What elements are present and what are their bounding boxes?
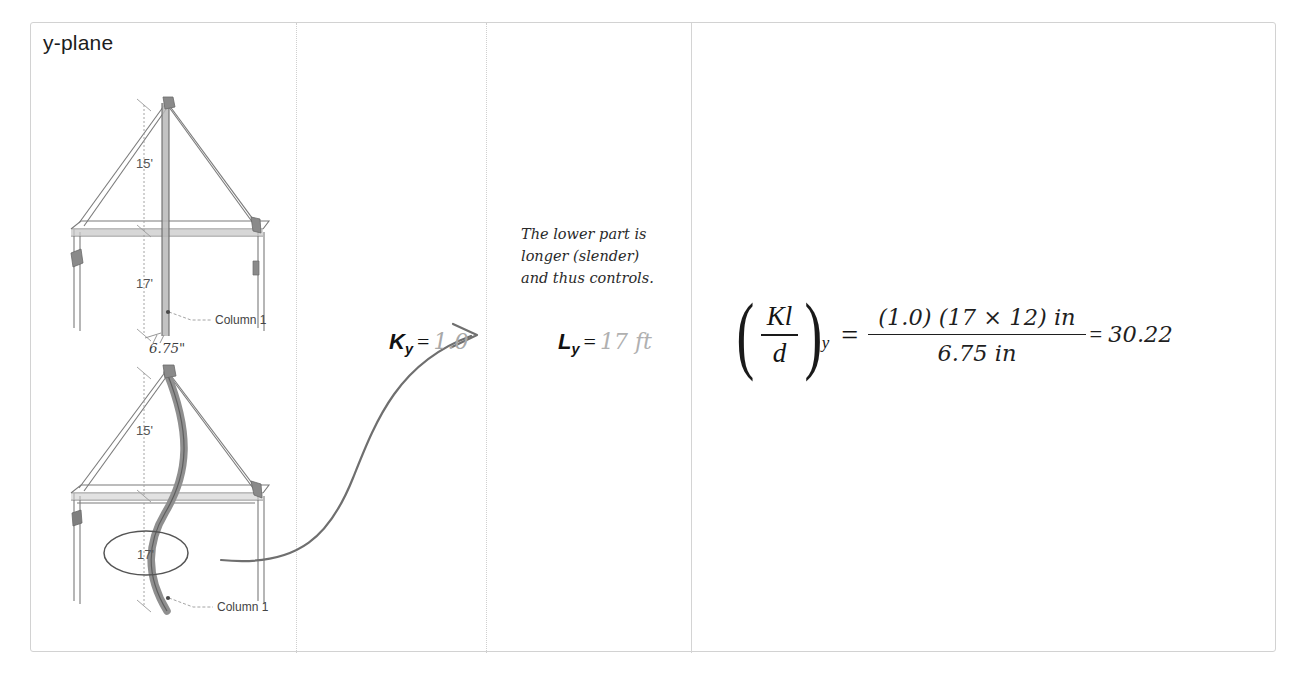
k-factor-label: Ky=1.0 (389, 329, 468, 357)
kl-over-d-fraction: Kl d (761, 301, 799, 369)
l-symbol: Ly (558, 329, 580, 354)
leader-dot (166, 596, 170, 600)
truss-bottom-chord (71, 493, 263, 500)
equation-equals: = (841, 318, 858, 352)
open-paren: ( (736, 301, 754, 368)
k-equals: = (413, 329, 433, 354)
apex-connector (163, 365, 176, 378)
note-line-1: The lower part is (521, 223, 706, 245)
k-value: 1.0 (433, 329, 468, 354)
content-frame: y-plane (30, 22, 1276, 652)
length-label: Ly=17 ft (558, 329, 652, 357)
dimension-upper-15ft: 15' (136, 423, 153, 438)
rhs-fraction: (1.0) (17 × 12) in 6.75 in (868, 304, 1085, 367)
l-value: 17 ft (600, 329, 652, 354)
result-value: 30.22 (1108, 321, 1172, 347)
column-divider-1 (296, 23, 297, 653)
buckled-column-truss-diagram: 15' 17' Column 1 (41, 353, 291, 643)
rhs-denominator: 6.75 in (927, 335, 1026, 366)
equation-result: =30.22 (1090, 321, 1173, 348)
dimension-width-675in: 6.75" (149, 340, 185, 353)
lhs-subscript: y (822, 333, 830, 353)
left-base-connector (71, 249, 83, 267)
right-base-connector (253, 261, 259, 275)
apex-connector (163, 97, 175, 109)
straight-column-truss-diagram: 15' 17' 6.75" Column 1 (41, 83, 291, 353)
rhs-numerator: (1.0) (17 × 12) in (868, 304, 1085, 334)
note-line-2: longer (slender) (521, 245, 706, 267)
left-base-connector (72, 510, 82, 526)
kl-numerator: Kl (761, 301, 799, 334)
note-line-3: and thus controls. (521, 267, 706, 289)
dimension-lower-17ft: 17' (137, 547, 154, 562)
k-symbol: Ky (389, 329, 413, 354)
d-denominator: d (767, 336, 793, 369)
close-paren: ) (805, 301, 823, 368)
lhs-group: ( Kl d ) y (731, 301, 829, 369)
leader-dot (166, 310, 170, 314)
column-divider-2 (486, 23, 487, 653)
dimension-lower-17ft: 17' (136, 276, 153, 291)
l-equals: = (580, 329, 600, 354)
column-member (162, 103, 169, 336)
worksheet-page: y-plane (0, 0, 1310, 686)
slenderness-equation: ( Kl d ) y = (1.0) (17 × 12) in 6.75 in … (731, 301, 1173, 369)
member-label-column1: Column 1 (217, 600, 269, 614)
annotation-note: The lower part is longer (slender) and t… (521, 223, 706, 289)
dimension-upper-15ft: 15' (136, 156, 153, 171)
result-equals: = (1090, 322, 1103, 347)
member-label-column1: Column 1 (215, 313, 267, 327)
page-title: y-plane (43, 31, 113, 55)
column-divider-3 (691, 23, 692, 653)
